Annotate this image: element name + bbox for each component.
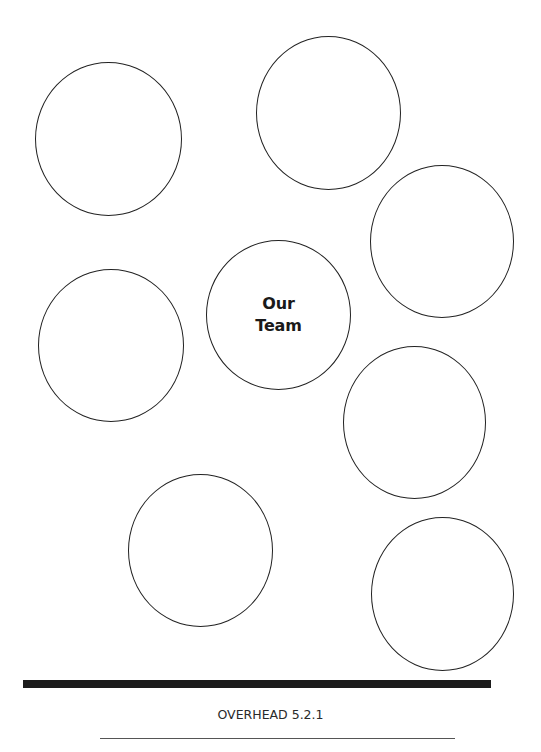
overhead-label: OVERHEAD 5.2.1 bbox=[0, 707, 541, 722]
center-circle-our-team: Our Team bbox=[206, 240, 351, 390]
empty-circle-top-center bbox=[256, 36, 401, 190]
empty-circle-top-left bbox=[35, 62, 182, 216]
center-label-line2: Team bbox=[255, 315, 301, 337]
footer-rule-line bbox=[100, 738, 455, 739]
empty-circle-bottom-left bbox=[128, 474, 273, 627]
center-label-line1: Our bbox=[262, 293, 294, 315]
empty-circle-left-middle bbox=[38, 269, 184, 422]
heavy-divider-bar bbox=[23, 680, 491, 688]
empty-circle-bottom-right bbox=[371, 517, 514, 671]
empty-circle-right-upper bbox=[370, 165, 514, 318]
empty-circle-right-lower bbox=[343, 346, 486, 499]
